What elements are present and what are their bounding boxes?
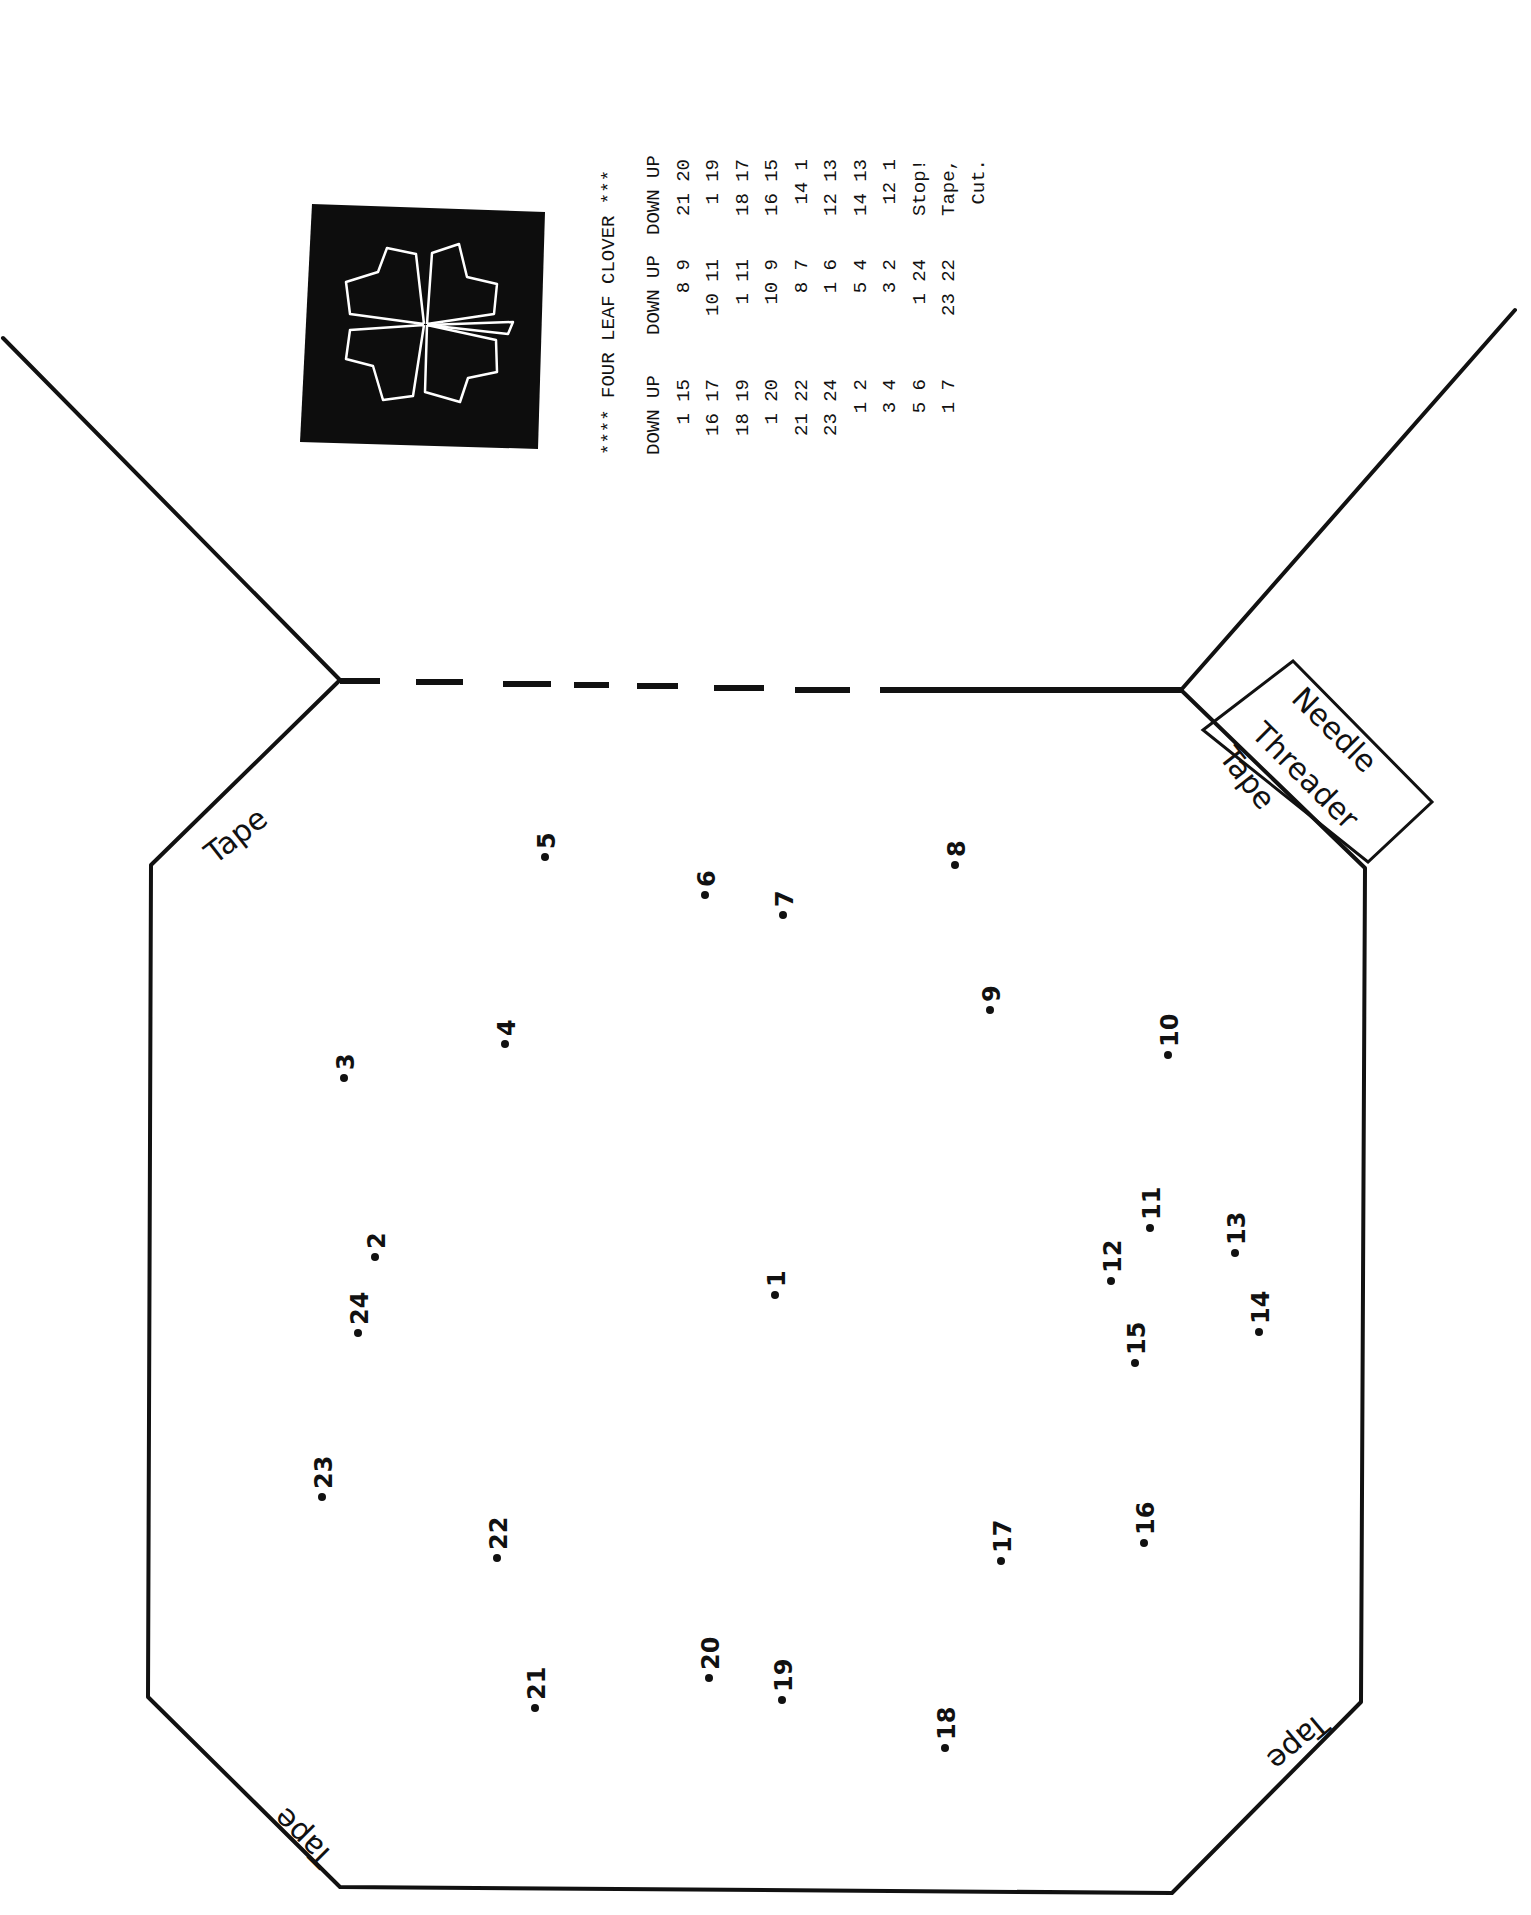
- point-dot: [501, 1040, 509, 1048]
- point-label: 8: [943, 840, 971, 857]
- point-dot: [541, 853, 549, 861]
- point-label: 1: [763, 1270, 791, 1287]
- point-dot: [941, 1744, 949, 1752]
- instruction-row: Tape,: [938, 159, 960, 216]
- point-label: 3: [332, 1053, 360, 1070]
- right-flap-fold-line: [1181, 310, 1515, 690]
- instruction-row: 1 19: [702, 159, 724, 205]
- instruction-row: 5 4: [850, 259, 872, 293]
- point-dot: [771, 1291, 779, 1299]
- point-dot: [531, 1704, 539, 1712]
- point-dot: [1131, 1359, 1139, 1367]
- point-dot: [354, 1329, 362, 1337]
- numbered-point: 13: [1223, 1212, 1251, 1257]
- point-dot: [318, 1493, 326, 1501]
- point-label: 11: [1138, 1187, 1166, 1220]
- point-label: 18: [933, 1707, 961, 1740]
- numbered-point: 4: [493, 1019, 521, 1048]
- numbered-point: 11: [1138, 1187, 1166, 1232]
- column-header: DOWN UP: [643, 255, 665, 335]
- point-label: 6: [693, 870, 721, 887]
- instruction-row: 8 7: [791, 259, 813, 293]
- instruction-row: 3 4: [879, 379, 901, 413]
- numbered-point: 23: [310, 1456, 338, 1501]
- clover-preview-image: [300, 204, 545, 449]
- instruction-row: 16 17: [702, 379, 724, 436]
- instruction-row: 18 17: [732, 159, 754, 216]
- point-dot: [705, 1674, 713, 1682]
- numbered-point: 18: [933, 1707, 961, 1752]
- numbered-point: 16: [1132, 1502, 1160, 1547]
- numbered-point: 3: [332, 1053, 360, 1082]
- instruction-row: 1 11: [732, 259, 754, 305]
- left-flap-fold-line: [3, 338, 340, 680]
- point-dot: [1231, 1249, 1239, 1257]
- numbered-point: 12: [1099, 1240, 1127, 1285]
- point-label: 19: [770, 1659, 798, 1692]
- numbered-point: 17: [989, 1520, 1017, 1565]
- point-dot: [1140, 1539, 1148, 1547]
- column-header: DOWN UP: [643, 375, 665, 455]
- instruction-row: 1 24: [909, 259, 931, 305]
- numbered-points: 123456789101112131415161718192021222324: [310, 832, 1275, 1752]
- point-dot: [1107, 1277, 1115, 1285]
- instruction-row: 14 13: [850, 159, 872, 216]
- instruction-row: 1 7: [938, 379, 960, 413]
- point-dot: [986, 1006, 994, 1014]
- tape-label-bottom-left: Tape: [266, 1801, 340, 1875]
- instruction-row: 23 22: [938, 259, 960, 316]
- point-label: 5: [533, 832, 561, 849]
- numbered-point: 10: [1156, 1014, 1184, 1059]
- point-dot: [1255, 1328, 1263, 1336]
- numbered-point: 20: [697, 1637, 725, 1682]
- point-dot: [371, 1253, 379, 1261]
- point-dot: [1146, 1224, 1154, 1232]
- instruction-row: Cut.: [968, 159, 990, 205]
- numbered-point: 22: [485, 1517, 513, 1562]
- point-dot: [779, 911, 787, 919]
- point-dot: [778, 1696, 786, 1704]
- point-label: 17: [989, 1520, 1017, 1553]
- point-label: 4: [493, 1019, 521, 1036]
- point-label: 15: [1123, 1322, 1151, 1355]
- numbered-point: 15: [1123, 1322, 1151, 1367]
- numbered-point: 8: [943, 840, 971, 869]
- numbered-point: 24: [346, 1292, 374, 1337]
- point-dot: [340, 1074, 348, 1082]
- point-label: 14: [1247, 1291, 1275, 1324]
- instruction-row: 10 11: [702, 259, 724, 316]
- instruction-row: 1 2: [850, 379, 872, 413]
- instruction-row: 14 1: [791, 159, 813, 205]
- numbered-point: 2: [363, 1232, 391, 1261]
- point-label: 7: [771, 890, 799, 907]
- point-label: 12: [1099, 1240, 1127, 1273]
- numbered-point: 6: [693, 870, 721, 899]
- point-label: 20: [697, 1637, 725, 1670]
- numbered-point: 9: [978, 985, 1006, 1014]
- point-label: 24: [346, 1292, 374, 1325]
- point-dot: [997, 1557, 1005, 1565]
- dashed-fold-line: [340, 681, 1181, 690]
- instruction-row: 8 9: [673, 259, 695, 293]
- point-label: 16: [1132, 1502, 1160, 1535]
- point-label: 9: [978, 985, 1006, 1002]
- instruction-row: 18 19: [732, 379, 754, 436]
- instruction-row: 5 6: [909, 379, 931, 413]
- instruction-row: 23 24: [820, 379, 842, 436]
- instruction-row: 12 13: [820, 159, 842, 216]
- point-dot: [951, 861, 959, 869]
- worksheet: Needle Threader Tape Tape Tape Tape ****…: [0, 0, 1531, 1915]
- instruction-row: 21 20: [673, 159, 695, 216]
- point-dot: [493, 1554, 501, 1562]
- numbered-point: 14: [1247, 1291, 1275, 1336]
- instruction-row: 3 2: [879, 259, 901, 293]
- octagon-outline: [148, 680, 1365, 1893]
- instruction-row: 16 15: [761, 159, 783, 216]
- point-label: 2: [363, 1232, 391, 1249]
- instruction-row: Stop!: [909, 159, 931, 216]
- instruction-row: 10 9: [761, 259, 783, 305]
- numbered-point: 21: [523, 1667, 551, 1712]
- instruction-row: 21 22: [791, 379, 813, 436]
- instruction-row: 1 15: [673, 379, 695, 425]
- numbered-point: 7: [771, 890, 799, 919]
